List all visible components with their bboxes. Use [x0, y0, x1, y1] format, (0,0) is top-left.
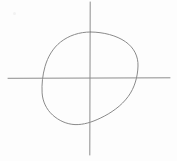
sketch-drawing: [0, 0, 177, 161]
canvas-background: [0, 0, 177, 161]
figure-canvas: Circle intersected by horizontal and ver…: [0, 0, 177, 161]
horizontal-axis-line: [8, 78, 170, 79]
